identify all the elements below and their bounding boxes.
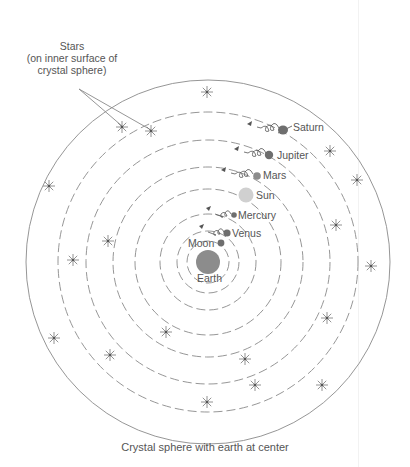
stars-label: Stars (on inner surface of crystal spher… — [22, 40, 122, 76]
star-icon — [104, 349, 116, 361]
star-icon — [321, 312, 333, 324]
star-icon — [48, 332, 60, 344]
star-icon — [201, 396, 213, 408]
moon-icon — [218, 240, 225, 247]
venus-label: Venus — [232, 227, 261, 239]
earth-icon — [196, 250, 220, 274]
star-icon — [351, 174, 363, 186]
moon-label: Moon — [188, 237, 214, 249]
mars-label: Mars — [263, 169, 286, 181]
earth-label: Earth — [197, 272, 222, 284]
star-icon — [316, 379, 328, 391]
star-icon — [365, 260, 377, 272]
star-icon — [67, 254, 79, 266]
jupiter-label: Jupiter — [277, 149, 309, 161]
mercury-icon — [231, 212, 237, 218]
saturn-label: Saturn — [293, 121, 324, 133]
star-icon — [330, 219, 342, 231]
stars-label-line-2: (on inner surface of — [22, 52, 122, 64]
jupiter-icon — [265, 151, 273, 159]
stars-label-line-3: crystal sphere) — [22, 64, 122, 76]
star-icon — [145, 125, 157, 137]
sun-icon — [239, 188, 254, 203]
star-icon — [249, 379, 261, 391]
star-icon — [102, 235, 114, 247]
mercury-label: Mercury — [238, 209, 276, 221]
mars-icon — [253, 172, 261, 180]
star-icon — [239, 353, 251, 365]
pointer-line-1 — [79, 89, 122, 126]
caption: Crystal sphere with earth at center — [0, 441, 410, 453]
venus-icon — [223, 229, 230, 236]
sun-label: Sun — [256, 189, 275, 201]
star-icon — [324, 145, 336, 157]
star-icon — [43, 180, 55, 192]
stars-label-line-1: Stars — [22, 40, 122, 52]
star-icon — [160, 326, 172, 338]
star-icon — [201, 86, 213, 98]
star-icon — [116, 121, 128, 133]
